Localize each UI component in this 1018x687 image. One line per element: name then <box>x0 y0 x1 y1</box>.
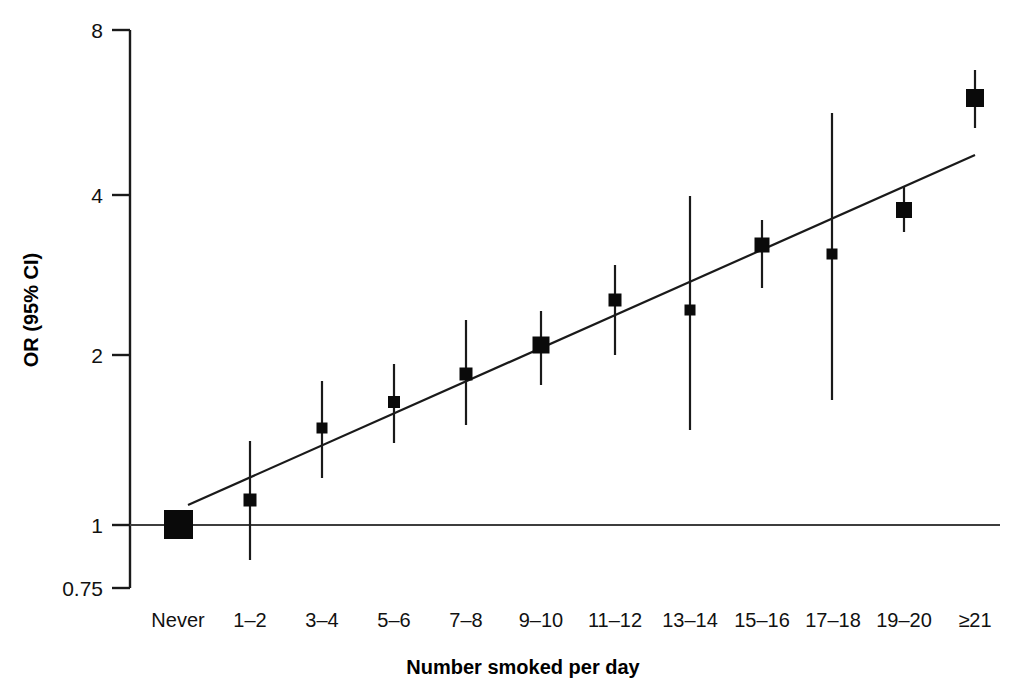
x-tick-label-13-14: 13–14 <box>662 609 718 631</box>
y-tick-label-8: 8 <box>91 19 103 42</box>
y-axis-ticks <box>112 30 130 588</box>
x-tick-label-never: Never <box>151 609 205 631</box>
ci-bars <box>250 70 975 560</box>
x-tick-label-21plus: ≥21 <box>958 609 991 631</box>
marker-1-2 <box>244 494 257 507</box>
x-tick-label-1-2: 1–2 <box>233 609 266 631</box>
x-tick-label-5-6: 5–6 <box>377 609 410 631</box>
marker-15-16 <box>755 238 770 253</box>
y-axis-title: OR (95% CI) <box>20 253 42 367</box>
marker-13-14 <box>685 305 696 316</box>
x-tick-label-19-20: 19–20 <box>876 609 932 631</box>
marker-5-6 <box>388 396 400 408</box>
marker-21plus <box>966 89 984 107</box>
x-axis-title: Number smoked per day <box>406 656 640 678</box>
marker-9-10 <box>533 337 550 354</box>
marker-17-18 <box>827 249 838 260</box>
x-tick-label-7-8: 7–8 <box>449 609 482 631</box>
y-axis-tick-labels: 8 4 2 1 0.75 <box>62 19 103 600</box>
x-tick-label-3-4: 3–4 <box>305 609 338 631</box>
x-tick-label-11-12: 11–12 <box>588 609 642 631</box>
marker-7-8 <box>460 368 473 381</box>
y-tick-label-2: 2 <box>91 344 103 367</box>
x-axis-tick-labels: Never 1–2 3–4 5–6 7–8 9–10 11–12 13–14 1… <box>151 609 991 631</box>
data-markers <box>164 89 984 539</box>
x-tick-label-15-16: 15–16 <box>734 609 790 631</box>
y-tick-label-4: 4 <box>91 184 103 207</box>
x-tick-label-9-10: 9–10 <box>519 609 564 631</box>
x-tick-label-17-18: 17–18 <box>805 609 861 631</box>
y-tick-label-0.75: 0.75 <box>62 577 103 600</box>
trend-line <box>188 155 975 505</box>
y-tick-label-1: 1 <box>91 514 103 537</box>
figure-container: 8 4 2 1 0.75 OR (95% CI) <box>0 0 1018 687</box>
marker-3-4 <box>317 423 328 434</box>
marker-11-12 <box>609 294 622 307</box>
marker-never <box>164 510 193 539</box>
marker-19-20 <box>896 202 912 218</box>
odds-ratio-chart: 8 4 2 1 0.75 OR (95% CI) <box>0 0 1018 687</box>
